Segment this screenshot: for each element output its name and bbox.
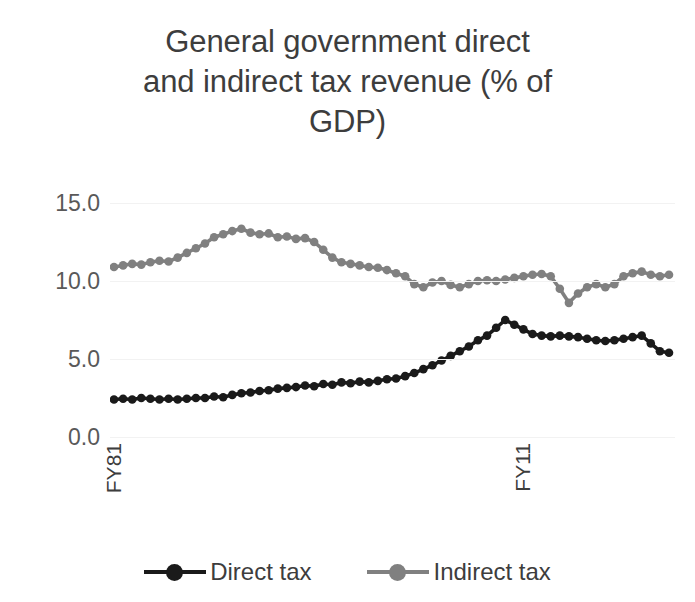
data-point-marker [128,395,137,404]
data-point-marker [173,395,182,404]
legend-label-indirect-tax: Indirect tax [433,560,550,584]
legend-item-indirect-tax[interactable]: Indirect tax [367,560,550,584]
data-point-marker [319,246,328,255]
data-point-marker [210,233,219,242]
data-point-marker [137,394,146,403]
legend-label-direct-tax: Direct tax [210,560,311,584]
data-point-marker [283,232,292,241]
data-point-marker [383,266,392,275]
data-point-marker [264,386,273,395]
data-point-marker [647,270,656,279]
chart-title-line-2: and indirect tax revenue (% of [40,62,655,102]
data-point-marker [319,380,328,389]
data-point-marker [546,272,555,281]
data-point-marker [465,342,474,351]
data-point-marker [155,395,164,404]
data-point-marker [219,393,228,402]
data-point-marker [374,377,383,386]
data-point-marker [292,383,301,392]
data-point-marker [401,272,410,281]
data-point-marker [556,331,565,340]
data-point-marker [182,249,191,258]
data-point-marker [546,332,555,341]
data-point-marker [192,394,201,403]
y-axis-tick-10: 10.0 [4,270,100,293]
data-point-marker [565,332,574,341]
data-point-marker [583,334,592,343]
legend-marker-direct-tax-icon [144,561,206,583]
data-point-marker [637,267,646,276]
data-point-marker [301,234,310,243]
gridline-10 [110,281,675,282]
data-point-marker [501,275,510,284]
data-point-marker [310,238,319,247]
chart-legend: Direct tax Indirect tax [0,550,695,594]
data-point-marker [647,339,656,348]
data-point-marker [665,270,674,279]
data-point-marker [146,394,155,403]
data-point-marker [565,299,574,308]
data-point-marker [537,270,546,279]
x-axis-tick-fy81: FY81 [103,443,124,493]
data-point-marker [119,394,128,403]
data-point-marker [228,391,237,400]
data-point-marker [255,387,264,396]
data-point-marker [392,269,401,278]
data-point-marker [556,285,565,294]
data-point-marker [346,379,355,388]
data-point-marker [155,256,164,265]
data-point-marker [601,337,610,346]
data-point-marker [383,375,392,384]
data-point-marker [428,278,437,287]
data-point-marker [283,384,292,393]
data-point-marker [337,378,346,387]
x-axis-tick-fy11: FY11 [512,443,533,492]
data-point-marker [201,394,210,403]
data-point-marker [164,257,173,266]
gridline-5 [110,359,675,360]
data-point-marker [656,347,665,356]
data-point-marker [328,253,337,262]
data-point-marker [128,260,137,269]
chart-title-line-3: GDP) [40,102,655,142]
data-point-marker [173,253,182,262]
data-point-marker [164,394,173,403]
data-point-marker [483,331,492,340]
data-point-marker [528,330,537,339]
data-point-marker [628,269,637,278]
data-point-marker [619,272,628,281]
data-point-marker [355,261,364,270]
data-point-marker [455,347,464,356]
data-point-marker [355,377,364,386]
data-point-marker [137,260,146,269]
legend-item-direct-tax[interactable]: Direct tax [144,560,311,584]
data-point-marker [237,389,246,398]
data-point-marker [364,378,373,387]
data-point-marker [374,263,383,272]
gridline-15 [110,203,675,204]
data-point-marker [455,283,464,292]
data-point-marker [619,334,628,343]
data-point-marker [574,289,583,298]
data-point-marker [428,361,437,370]
data-point-marker [419,283,428,292]
data-point-marker [610,336,619,345]
data-point-marker [392,374,401,383]
data-point-marker [492,324,501,333]
data-point-marker [628,333,637,342]
y-axis-tick-5: 5.0 [4,348,100,371]
data-point-marker [419,365,428,374]
data-point-marker [601,283,610,292]
data-point-marker [528,270,537,279]
data-point-marker [519,325,528,334]
data-point-marker [637,331,646,340]
data-point-marker [246,388,255,397]
data-point-marker [255,230,264,239]
series-line [114,229,669,303]
x-axis: FY81 FY11 [0,443,695,543]
data-point-marker [273,233,282,242]
data-point-marker [273,384,282,393]
data-point-marker [219,230,228,239]
data-point-marker [501,316,510,325]
data-point-marker [346,260,355,269]
